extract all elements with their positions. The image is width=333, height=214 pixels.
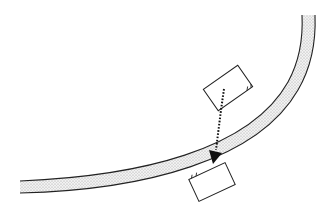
diagram-canvas <box>0 0 333 214</box>
road <box>20 15 315 193</box>
road-edge-upper <box>20 15 302 181</box>
start-box <box>203 65 252 110</box>
end-box <box>188 160 236 201</box>
road-fill <box>20 15 315 193</box>
diagram-svg <box>0 0 333 214</box>
